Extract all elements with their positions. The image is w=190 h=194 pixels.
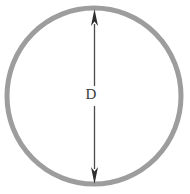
dimension-arrowhead-top: [91, 9, 98, 26]
figure-canvas: D: [0, 0, 190, 194]
circle-diameter-figure: D: [0, 0, 190, 194]
diameter-label: D: [86, 86, 97, 102]
